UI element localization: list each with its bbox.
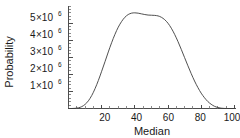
- y-tick-base: ×10: [36, 63, 53, 74]
- y-tick-base: ×10: [36, 12, 53, 23]
- y-tick-label: 1 ×10 6: [30, 78, 62, 91]
- y-tick-exponent: 6: [58, 27, 62, 34]
- y-tick-exponent: 6: [58, 78, 62, 85]
- x-tick-label: 20: [99, 112, 111, 123]
- y-tick-label: 4 ×10 6: [30, 27, 62, 40]
- y-tick-label: 2 ×10 6: [30, 61, 62, 74]
- y-tick-exponent: 6: [58, 44, 62, 51]
- y-tick-base: ×10: [36, 29, 53, 40]
- y-tick-base: ×10: [36, 46, 53, 57]
- y-tick-base: ×10: [36, 80, 53, 91]
- y-tick-labels: 5 ×10 6 4 ×10 6 3 ×10 6 2 ×10 6 1 ×10: [30, 10, 62, 91]
- probability-curve: [69, 13, 235, 109]
- x-tick-label: 80: [195, 112, 207, 123]
- chart-figure: Probability 5 ×10 6 4 ×10 6 3 ×10 6 2 ×1…: [0, 0, 240, 138]
- probability-median-line-chart: Probability 5 ×10 6 4 ×10 6 3 ×10 6 2 ×1…: [0, 0, 240, 138]
- x-tick-label: 60: [163, 112, 175, 123]
- x-tick-label: 100: [224, 112, 240, 123]
- y-tick-label: 3 ×10 6: [30, 44, 62, 57]
- x-tick-label: 40: [131, 112, 143, 123]
- y-axis-title: Probability: [3, 36, 15, 88]
- y-tick-exponent: 6: [58, 61, 62, 68]
- x-axis-ticks: [69, 105, 235, 109]
- x-tick-labels: 20 40 60 80 100: [99, 112, 240, 123]
- y-tick-exponent: 6: [58, 10, 62, 17]
- x-axis-title: Median: [134, 125, 170, 137]
- y-tick-label: 5 ×10 6: [30, 10, 62, 23]
- y-axis-ticks: [69, 6, 73, 109]
